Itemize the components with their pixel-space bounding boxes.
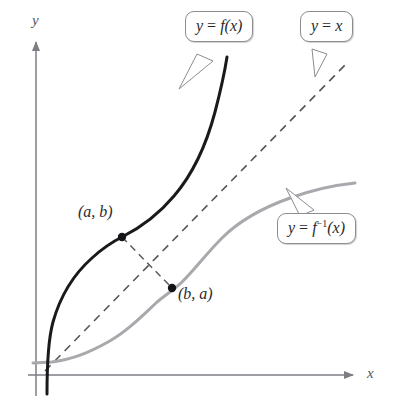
callout-finv-operator: = — [295, 219, 312, 236]
callout-y-equals-f-of-x: y = f(x) — [185, 11, 253, 42]
y-axis-label: y — [32, 12, 39, 29]
point-ab-label: (a, b) — [78, 203, 113, 221]
callout-f-operator: = — [203, 17, 220, 34]
callout-f-body: f(x) — [220, 17, 242, 34]
callout-finv-suffix: (x) — [327, 219, 345, 236]
reflection-segment — [122, 237, 172, 288]
figure-canvas — [0, 0, 398, 408]
f-callout-tail — [179, 54, 213, 89]
callout-y-equals-f-inverse-of-x: y = f−1(x) — [277, 213, 356, 244]
inverse-function-figure: y x (a, b) (b, a) y = f(x) y = x y = f−1… — [0, 0, 398, 408]
point-ba-label: (b, a) — [178, 285, 213, 303]
point-ab-dot — [118, 233, 126, 241]
point-ba-dot — [168, 284, 176, 292]
callout-identity-operator: = — [318, 17, 335, 34]
black-curve-f — [47, 57, 227, 394]
identity-callout-tail — [312, 49, 327, 77]
callout-identity-body: x — [335, 17, 342, 34]
callout-y-equals-x: y = x — [300, 11, 353, 42]
x-axis-label: x — [367, 365, 374, 382]
callout-finv-exponent: −1 — [317, 218, 328, 229]
